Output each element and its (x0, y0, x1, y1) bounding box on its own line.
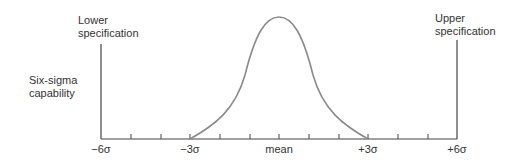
normal-curve (190, 17, 368, 139)
tick-label-mean: mean (265, 143, 293, 155)
tick-label-minus-6-sigma: −6σ (91, 143, 110, 155)
capability-label: Six-sigma capability (29, 74, 77, 100)
lower-spec-label: Lower specification (78, 14, 139, 40)
upper-spec-label: Upper specification (435, 12, 496, 38)
tick-label-plus-3-sigma: +3σ (358, 143, 377, 155)
tick-label-minus-3-sigma: −3σ (180, 143, 199, 155)
axis-ticks (131, 134, 428, 139)
tick-label-plus-6-sigma: +6σ (447, 143, 466, 155)
